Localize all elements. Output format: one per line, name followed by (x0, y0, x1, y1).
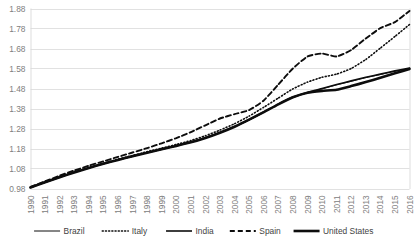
x-tick-label: 1996 (114, 195, 123, 214)
x-tick-label: 1994 (85, 195, 94, 214)
x-tick-label: 1999 (158, 195, 167, 214)
y-tick-label: 1.58 (9, 64, 26, 74)
line-chart: 1.881.781.681.581.481.381.281.181.080.98… (0, 0, 415, 246)
y-tick-label: 0.98 (9, 184, 26, 194)
legend-label-italy: Italy (132, 226, 148, 236)
x-tick-label: 1991 (41, 195, 50, 214)
x-tick-label: 2008 (289, 195, 298, 214)
x-tick-label: 2012 (347, 195, 356, 214)
x-tick-label: 2004 (231, 195, 240, 214)
x-tick-label: 2016 (406, 195, 415, 214)
legend-label-spain: Spain (259, 226, 281, 236)
gridlines (31, 9, 411, 190)
x-tick-label: 1990 (27, 195, 36, 214)
y-tick-label: 1.18 (9, 144, 26, 154)
data-series (31, 11, 410, 188)
x-tick-label: 2009 (304, 195, 313, 214)
y-tick-label: 1.38 (9, 104, 26, 114)
x-tick-label: 2005 (245, 195, 254, 214)
legend-label-united-states: United States (323, 226, 373, 236)
y-tick-label: 1.68 (9, 44, 26, 54)
chart-legend: BrazilItalyIndiaSpainUnited States (34, 226, 373, 236)
x-tick-label: 2002 (202, 195, 211, 214)
series-line-united-states (31, 69, 410, 188)
series-line-spain (31, 11, 410, 187)
y-tick-label: 1.28 (9, 124, 26, 134)
y-tick-label: 1.78 (9, 24, 26, 34)
x-tick-label: 2011 (333, 195, 342, 213)
x-tick-label: 2001 (187, 195, 196, 214)
x-tick-label: 2007 (274, 195, 283, 214)
y-axis-tick-labels: 1.881.781.681.581.481.381.281.181.080.98 (9, 4, 26, 194)
x-tick-label: 2014 (376, 195, 385, 214)
chart-canvas: 1.881.781.681.581.481.381.281.181.080.98… (0, 0, 415, 246)
y-tick-label: 1.48 (9, 84, 26, 94)
legend-label-brazil: Brazil (64, 226, 85, 236)
y-tick-label: 1.88 (9, 4, 26, 14)
x-tick-label: 1997 (129, 195, 138, 214)
x-tick-label: 2015 (391, 195, 400, 214)
x-tick-label: 2010 (318, 195, 327, 214)
x-axis-tick-labels: 1990199119921993199419951996199719981999… (27, 195, 415, 214)
x-tick-label: 2013 (362, 195, 371, 214)
x-tick-label: 1992 (56, 195, 65, 214)
x-tick-label: 2006 (260, 195, 269, 214)
y-tick-label: 1.08 (9, 164, 26, 174)
x-tick-label: 2003 (216, 195, 225, 214)
legend-label-india: India (196, 226, 215, 236)
x-tick-label: 1995 (99, 195, 108, 214)
x-tick-label: 1993 (70, 195, 79, 214)
x-tick-label: 2000 (172, 195, 181, 214)
x-tick-label: 1998 (143, 195, 152, 214)
